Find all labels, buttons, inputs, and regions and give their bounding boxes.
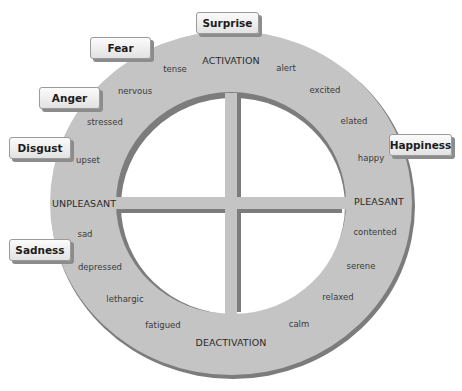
- word-relaxed: relaxed: [322, 292, 354, 302]
- axis-shadow: [237, 209, 342, 213]
- word-lethargic: lethargic: [106, 294, 143, 304]
- axis-shadow: [237, 97, 241, 197]
- word-upset: upset: [76, 155, 100, 165]
- emotion-box-sadness: Sadness: [9, 239, 71, 261]
- word-elated: elated: [341, 116, 368, 126]
- axis-label-deactivation: DEACTIVATION: [196, 337, 267, 348]
- word-calm: calm: [289, 319, 310, 329]
- emotion-box-disgust: Disgust: [9, 137, 71, 159]
- word-depressed: depressed: [78, 262, 122, 272]
- circumplex-diagram: ACTIVATION DEACTIVATION UNPLEASANT PLEAS…: [0, 0, 462, 391]
- emotion-box-fear: Fear: [90, 37, 151, 59]
- horizontal-axis-bar: [116, 197, 346, 209]
- emotion-box-happiness: Happiness: [389, 134, 452, 156]
- word-alert: alert: [276, 63, 296, 73]
- word-happy: happy: [358, 153, 384, 163]
- axis-shadow: [120, 209, 225, 213]
- word-contented: contented: [353, 227, 396, 237]
- word-tense: tense: [163, 64, 187, 74]
- word-excited: excited: [310, 85, 341, 95]
- emotion-box-anger: Anger: [39, 87, 100, 109]
- axis-label-unpleasant: UNPLEASANT: [52, 198, 116, 209]
- word-sad: sad: [77, 229, 92, 239]
- axis-label-activation: ACTIVATION: [202, 55, 259, 66]
- axis-shadow: [237, 209, 241, 312]
- word-nervous: nervous: [118, 86, 152, 96]
- word-fatigued: fatigued: [145, 320, 180, 330]
- axis-label-pleasant: PLEASANT: [354, 196, 404, 207]
- word-serene: serene: [347, 261, 376, 271]
- word-stressed: stressed: [87, 117, 123, 127]
- emotion-box-surprise: Surprise: [196, 12, 259, 34]
